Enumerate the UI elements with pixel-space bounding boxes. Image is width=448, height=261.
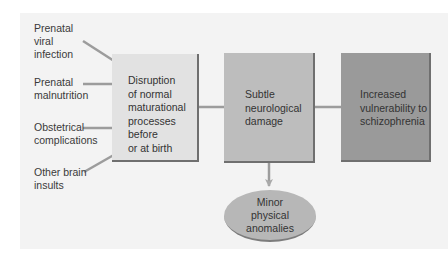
input-obstetrical-complications: Obstetrical complications bbox=[34, 121, 98, 147]
box-disruption-maturational-processes: Disruption of normal maturational proces… bbox=[112, 54, 199, 162]
input-prenatal-malnutrition: Prenatal malnutrition bbox=[34, 76, 88, 102]
box-subtle-neurological-damage: Subtle neurological damage bbox=[224, 53, 315, 163]
ellipse-minor-physical-anomalies: Minor physical anomalies bbox=[224, 190, 316, 242]
box-increased-vulnerability-schizophrenia: Increased vulnerability to schizophrenia bbox=[341, 53, 431, 162]
input-other-brain-insults: Other brain insults bbox=[34, 166, 87, 192]
input-prenatal-viral-infection: Prenatal viral infection bbox=[34, 22, 73, 61]
